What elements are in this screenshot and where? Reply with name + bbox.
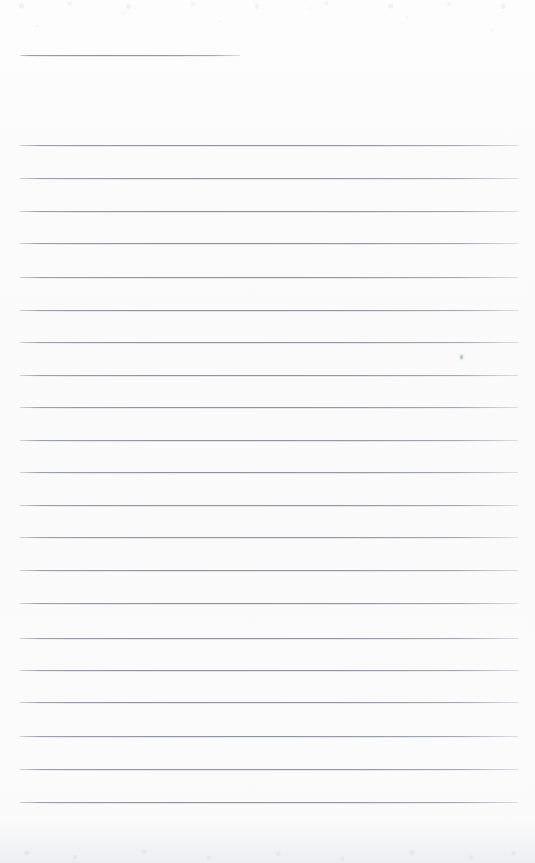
- scan-speck: [460, 355, 463, 359]
- ruled-line: [20, 243, 518, 244]
- ruled-line: [20, 603, 518, 604]
- ruled-line: [20, 670, 518, 671]
- ruled-line-short: [20, 55, 240, 56]
- paper-background: [0, 0, 535, 863]
- ruled-line: [20, 472, 518, 473]
- scanned-page: [0, 0, 535, 863]
- ruled-line: [20, 277, 518, 278]
- ruled-line: [20, 178, 518, 179]
- ruled-line: [20, 440, 518, 441]
- ruled-line: [20, 342, 518, 343]
- ruled-line: [20, 505, 518, 506]
- ruled-line: [20, 802, 518, 803]
- ruled-line: [20, 702, 518, 703]
- ruled-line: [20, 375, 518, 376]
- ruled-line: [20, 638, 518, 639]
- ruled-line: [20, 570, 518, 571]
- ruled-line: [20, 211, 518, 212]
- ruled-line: [20, 537, 518, 538]
- ruled-line: [20, 407, 518, 408]
- ruled-line: [20, 736, 518, 737]
- ruled-line: [20, 769, 518, 770]
- ruled-line: [20, 310, 518, 311]
- ruled-line: [20, 145, 518, 146]
